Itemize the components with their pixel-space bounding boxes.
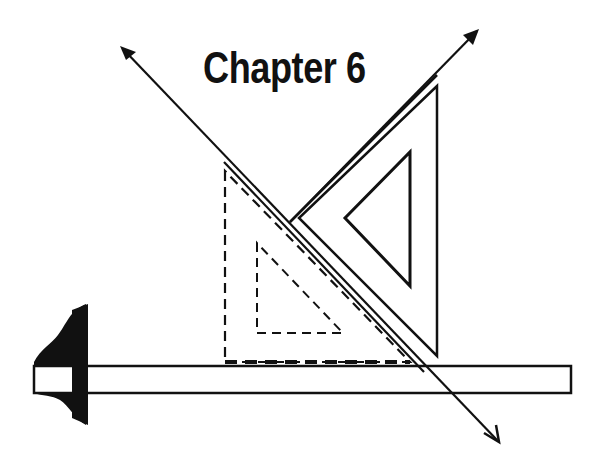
- dashed-set-square-inner: [257, 243, 343, 333]
- chapter-illustration: Chapter 6: [0, 0, 604, 476]
- solid-set-square-inner: [345, 152, 410, 286]
- t-square-blade: [34, 366, 571, 393]
- arrow-head-top-left-icon: [120, 46, 136, 60]
- chapter-title: Chapter 6: [203, 43, 366, 93]
- solid-set-square-outer: [299, 86, 437, 356]
- t-square-head-bar: [72, 304, 88, 425]
